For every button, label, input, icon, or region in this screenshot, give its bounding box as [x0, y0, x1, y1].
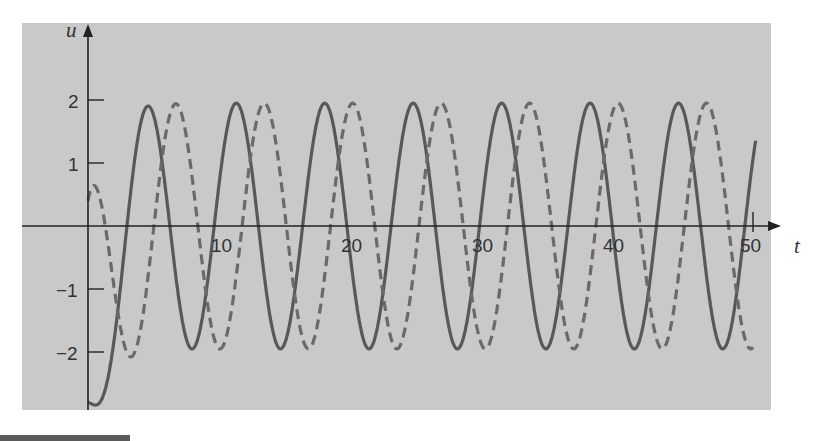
x-tick-label-20: 20 — [341, 235, 362, 256]
curves — [88, 103, 756, 405]
x-tick-label-10: 10 — [211, 235, 232, 256]
dashed-series-line — [88, 103, 753, 357]
x-tick-label-40: 40 — [603, 235, 624, 256]
y-tick-label-1: 1 — [68, 154, 79, 175]
y-axis-label: u — [66, 18, 77, 42]
y-tick-label-neg1: −1 — [56, 280, 78, 301]
y-tick-label-2: 2 — [68, 91, 79, 112]
y-tick-label-neg2: −2 — [56, 343, 78, 364]
x-tick-label-50: 50 — [740, 235, 761, 256]
x-axis-label: t — [794, 234, 801, 258]
line-chart: u t 2 1 −1 −2 10 20 30 40 50 — [0, 0, 828, 441]
x-tick-label-30: 30 — [472, 235, 493, 256]
x-axis-arrow-icon — [768, 221, 781, 231]
y-axis-arrow-icon — [83, 24, 93, 37]
